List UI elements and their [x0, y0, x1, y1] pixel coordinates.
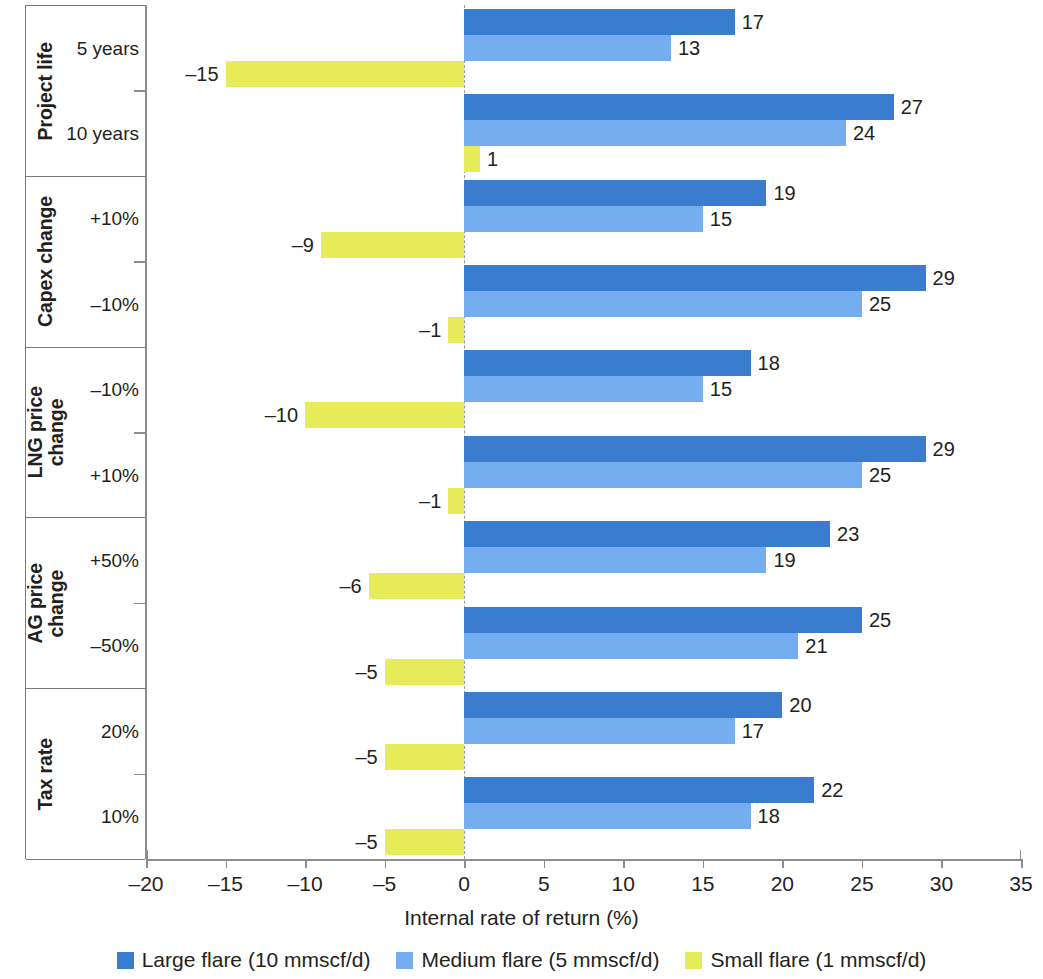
x-axis-tick-label: –5 [373, 872, 396, 896]
category-label-panel: Project life5 years10 yearsCapex change+… [25, 5, 145, 859]
legend-label: Large flare (10 mmscf/d) [142, 948, 371, 972]
category-sub-label: 10 years [51, 124, 139, 143]
bar [385, 829, 465, 855]
x-axis-line [146, 859, 1021, 861]
bar-value-label: –6 [339, 573, 361, 599]
x-axis-tick [305, 859, 307, 868]
category-group: Tax rate20%10% [26, 689, 145, 860]
bar-value-label: 17 [742, 9, 764, 35]
bar [464, 291, 862, 317]
x-axis-tick-label: 15 [691, 872, 714, 896]
legend-item: Small flare (1 mmscf/d) [685, 948, 926, 972]
x-axis-tick-label: –20 [128, 872, 163, 896]
category-group: Capex change+10%–10% [26, 177, 145, 348]
category-sub-label: –10% [51, 295, 139, 314]
x-axis-tick-label: 25 [850, 872, 873, 896]
x-axis-tick [703, 859, 705, 868]
bar [464, 94, 894, 120]
bar [464, 436, 925, 462]
category-group: LNG price change–10%+10% [26, 348, 145, 519]
category-group-title-text: Tax rate [35, 738, 56, 811]
x-axis-tick-label: 35 [1009, 872, 1032, 896]
x-axis-tick [941, 859, 943, 868]
x-axis-tick [464, 859, 466, 868]
category-sub-label: 5 years [51, 39, 139, 58]
category-sub-label: +50% [51, 551, 139, 570]
bar [464, 803, 750, 829]
bar-value-label: 18 [758, 803, 780, 829]
category-group-title: Capex change [26, 177, 66, 347]
bar [464, 633, 798, 659]
bar-value-label: 19 [773, 180, 795, 206]
bar-value-label: –5 [355, 829, 377, 855]
bar [464, 718, 734, 744]
category-group-title: LNG price change [26, 348, 66, 518]
bar-value-label: 22 [821, 777, 843, 803]
category-sub-label: 10% [51, 807, 139, 826]
bar-value-label: 20 [789, 692, 811, 718]
bar-value-label: –15 [185, 61, 218, 87]
x-axis-tick [1021, 859, 1023, 868]
legend-label: Small flare (1 mmscf/d) [710, 948, 926, 972]
bar-value-label: 15 [710, 376, 732, 402]
bar-value-label: 18 [758, 350, 780, 376]
x-axis-tick [544, 859, 546, 868]
x-axis-tick-label: 10 [612, 872, 635, 896]
x-axis-tick [862, 859, 864, 868]
category-sub-label: +10% [51, 209, 139, 228]
bar [226, 61, 465, 87]
bar [464, 35, 671, 61]
category-group-title: Tax rate [26, 689, 66, 859]
bar [464, 206, 703, 232]
bar-value-label: 25 [869, 607, 891, 633]
bar [464, 462, 862, 488]
bar [464, 146, 480, 172]
plot-area: 1713–15272411915–92925–11815–102925–1231… [146, 5, 1021, 859]
bar [464, 265, 925, 291]
bar-value-label: 29 [933, 265, 955, 291]
x-axis-tick [623, 859, 625, 868]
bar-value-label: –1 [419, 488, 441, 514]
bar [464, 350, 750, 376]
legend-item: Large flare (10 mmscf/d) [117, 948, 371, 972]
bar [464, 692, 782, 718]
x-axis-tick [385, 859, 387, 868]
bar [464, 9, 734, 35]
x-axis-title: Internal rate of return (%) [0, 906, 1043, 930]
category-group-title-text: AG price change [25, 563, 67, 643]
x-axis-tick [146, 859, 148, 868]
bar-value-label: –9 [292, 232, 314, 258]
bar [464, 777, 814, 803]
bar [448, 488, 464, 514]
bar-value-label: 1 [487, 146, 498, 172]
category-sub-label: –50% [51, 636, 139, 655]
bar-value-label: 24 [853, 120, 875, 146]
bar [321, 232, 464, 258]
bar-value-label: 21 [805, 633, 827, 659]
category-group-title: Project life [26, 6, 66, 176]
category-axis-tick [134, 90, 146, 92]
legend-item: Medium flare (5 mmscf/d) [396, 948, 659, 972]
category-axis-tick [134, 261, 146, 263]
legend-swatch-icon [396, 952, 413, 969]
bar-value-label: 15 [710, 206, 732, 232]
bar-value-label: 17 [742, 718, 764, 744]
bar [448, 317, 464, 343]
category-group: AG price change+50%–50% [26, 518, 145, 689]
category-group: Project life5 years10 years [26, 6, 145, 177]
bar-value-label: –10 [265, 402, 298, 428]
x-axis-tick-label: –10 [288, 872, 323, 896]
category-sub-label: +10% [51, 466, 139, 485]
x-axis-tick-label: –15 [208, 872, 243, 896]
bar-value-label: 29 [933, 436, 955, 462]
bar-value-label: –5 [355, 659, 377, 685]
bar-value-label: 25 [869, 291, 891, 317]
x-axis-tick-label: 30 [930, 872, 953, 896]
category-axis-tick [134, 774, 146, 776]
category-axis-tick [134, 603, 146, 605]
chart-legend: Large flare (10 mmscf/d)Medium flare (5 … [0, 948, 1043, 972]
x-axis-tick [226, 859, 228, 868]
x-axis-tick [782, 859, 784, 868]
bar-value-label: 13 [678, 35, 700, 61]
category-group-title: AG price change [26, 518, 66, 688]
